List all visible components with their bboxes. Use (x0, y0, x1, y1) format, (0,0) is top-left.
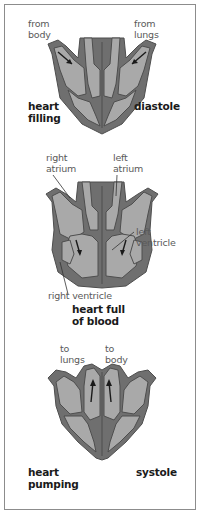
caption-heart-full-of-blood: heart fullof blood (72, 303, 125, 327)
heart-systole-illustration (46, 362, 158, 462)
caption-systole: systole (136, 466, 177, 478)
label-left-ventricle: leftventricle (136, 226, 176, 248)
caption-heart-pumping: heartpumping (28, 466, 79, 490)
label-right-ventricle: right ventricle (48, 290, 112, 301)
